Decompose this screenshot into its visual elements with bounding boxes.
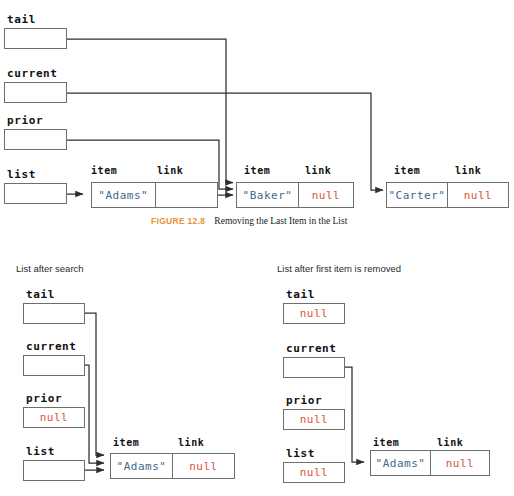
field-header-item-baker: item <box>244 165 270 176</box>
left-label-prior: prior <box>26 392 62 405</box>
right-field-header-item: item <box>373 437 399 448</box>
left-pointer-value-prior: null <box>23 407 85 428</box>
pointer-box-prior <box>4 129 67 150</box>
panel-caption-right: List after first item is removed <box>277 263 401 274</box>
field-header-link-carter: link <box>455 165 481 176</box>
field-header-link-adams: link <box>157 165 183 176</box>
right-pointer-value-prior: null <box>283 409 345 430</box>
left-label-list: list <box>26 445 55 458</box>
left-node-adams-link-value: null <box>173 454 234 478</box>
label-tail: tail <box>7 13 36 26</box>
node-baker-item-value: "Baker" <box>237 183 299 207</box>
node-baker-link-value: null <box>299 183 353 207</box>
figure-number: FIGURE 12.8 <box>151 216 205 226</box>
left-field-header-link: link <box>178 437 204 448</box>
left-pointer-box-current <box>23 355 85 376</box>
field-header-link-baker: link <box>305 165 331 176</box>
node-adams-link-value <box>156 183 218 207</box>
left-pointer-box-tail <box>23 303 85 324</box>
linked-list-figure: tail current prior list item link "Adams… <box>0 0 514 496</box>
node-adams: "Adams" <box>91 182 218 208</box>
right-node-adams-link-value: null <box>431 451 489 475</box>
right-node-adams-item-value: "Adams" <box>371 451 431 475</box>
right-field-header-link: link <box>437 437 463 448</box>
left-label-tail: tail <box>26 288 55 301</box>
label-prior: prior <box>7 114 43 127</box>
field-header-item-adams: item <box>91 165 117 176</box>
node-carter-item-value: "Carter" <box>387 183 448 207</box>
pointer-box-list <box>4 183 67 204</box>
right-label-prior: prior <box>286 394 322 407</box>
field-header-item-carter: item <box>394 165 420 176</box>
label-list: list <box>7 168 36 181</box>
right-label-list: list <box>286 447 315 460</box>
node-adams-item-value: "Adams" <box>92 183 156 207</box>
left-node-adams-item-value: "Adams" <box>111 454 173 478</box>
right-node-adams: "Adams" null <box>370 450 490 476</box>
node-baker: "Baker" null <box>236 182 354 208</box>
figure-title: Removing the Last Item in the List <box>214 216 347 226</box>
pointer-box-tail <box>4 28 67 49</box>
panel-caption-left: List after search <box>16 263 84 274</box>
arrow-tail-to-baker <box>34 36 233 182</box>
figure-caption: FIGURE 12.8 Removing the Last Item in th… <box>151 216 347 226</box>
right-label-current: current <box>286 342 337 355</box>
pointer-box-current <box>4 82 67 103</box>
node-carter: "Carter" null <box>386 182 509 208</box>
right-pointer-value-list: null <box>283 462 345 483</box>
left-label-current: current <box>26 340 77 353</box>
left-node-adams: "Adams" null <box>110 453 235 479</box>
right-pointer-box-current <box>283 357 345 378</box>
node-carter-link-value: null <box>448 183 508 207</box>
label-current: current <box>7 67 58 80</box>
right-label-tail: tail <box>286 288 315 301</box>
right-pointer-value-tail: null <box>283 303 345 324</box>
left-field-header-item: item <box>113 437 139 448</box>
arrow-left-tail-to-adams <box>44 310 104 455</box>
left-pointer-box-list <box>23 460 85 481</box>
